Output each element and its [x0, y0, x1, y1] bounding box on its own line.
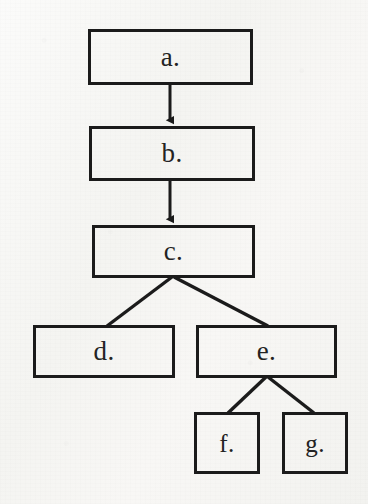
node-c-label: c. — [164, 238, 184, 265]
edge-e-f — [228, 377, 266, 413]
edge-e-g — [268, 377, 314, 413]
node-f[interactable]: f. — [194, 412, 260, 474]
edge-c-d — [107, 277, 172, 326]
node-a-label: a. — [161, 44, 181, 71]
node-e-label: e. — [257, 338, 277, 365]
node-f-label: f. — [219, 431, 235, 456]
node-g-label: g. — [305, 431, 325, 456]
diagram-canvas: a. b. c. d. e. f. g. — [0, 0, 368, 504]
node-d[interactable]: d. — [33, 325, 175, 378]
node-c[interactable]: c. — [92, 225, 255, 278]
node-g[interactable]: g. — [282, 412, 348, 474]
edge-c-e — [174, 277, 268, 326]
node-d-label: d. — [93, 338, 114, 365]
node-b[interactable]: b. — [89, 126, 255, 181]
node-e[interactable]: e. — [196, 325, 337, 378]
node-b-label: b. — [161, 140, 182, 167]
node-a[interactable]: a. — [88, 29, 253, 85]
